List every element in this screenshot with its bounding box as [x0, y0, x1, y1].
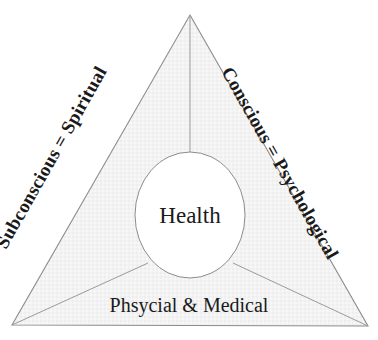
triangle-graphic — [0, 0, 378, 340]
center-circle — [135, 152, 245, 278]
health-triangle-diagram: Subconscious = Spiritual Conscious = Psy… — [0, 0, 378, 340]
